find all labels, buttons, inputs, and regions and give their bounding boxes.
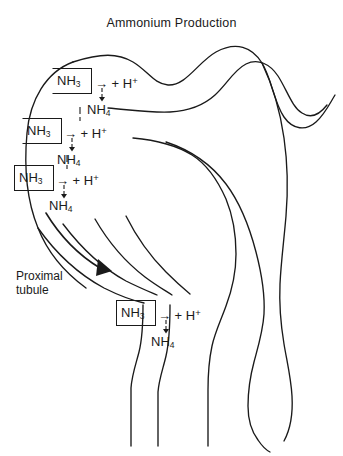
nh4-label-1: NH4 xyxy=(87,100,111,118)
lumen-wall-left-inner xyxy=(63,224,157,295)
figure-canvas: Ammonium Production xyxy=(0,0,343,456)
nh3-box-3: NH3 xyxy=(14,165,54,191)
descending-limb-outer-left xyxy=(131,305,143,446)
tubular-flow-arrow-shaft xyxy=(46,213,100,268)
nh3-label-1: NH3 xyxy=(57,73,81,88)
nh3-label-3: NH3 xyxy=(19,170,43,185)
nh4-label-4: NH4 xyxy=(151,332,175,350)
outer-right-wall xyxy=(262,63,292,441)
inner-wall-upper-loop xyxy=(108,62,327,116)
nh3-label-2: NH3 xyxy=(27,123,51,138)
inner-wall-second-limb xyxy=(166,142,270,452)
tubular-flow-arrow-head xyxy=(96,259,112,276)
reaction-1-to-2-connector xyxy=(75,107,85,123)
nh4-label-3: NH4 xyxy=(49,196,73,214)
proximal-tubule-label: Proximal tubule xyxy=(16,270,63,298)
lumen-wall-left-fourth xyxy=(126,216,190,294)
reaction-2-to-3-connector xyxy=(62,155,72,171)
nh3-box-1: NH3 xyxy=(52,68,92,94)
nh3-label-4: NH3 xyxy=(121,305,145,320)
nh3-box-2: NH3 xyxy=(22,118,62,144)
nh3-box-4: NH3 xyxy=(116,300,156,326)
